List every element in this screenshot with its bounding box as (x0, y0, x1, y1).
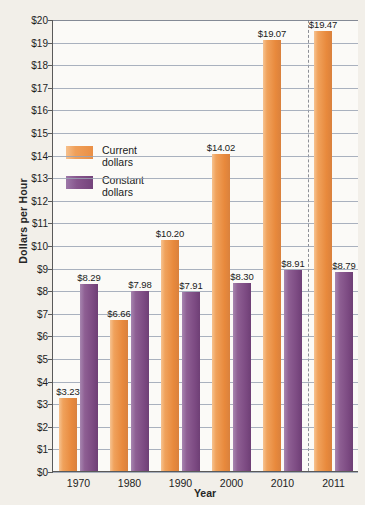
gridline (53, 427, 358, 428)
legend-label-current-line2: dollars (102, 157, 137, 169)
y-axis-tick-label: $1 (0, 444, 48, 455)
bar-value-label: $7.91 (179, 280, 202, 291)
y-axis-tickmark (48, 88, 53, 89)
y-axis-tickmark (48, 156, 53, 157)
y-axis-tick-label: $18 (0, 60, 48, 71)
bar-1980-constant[interactable] (131, 291, 149, 471)
bar-value-label: $19.07 (258, 28, 286, 39)
y-axis-tickmark (48, 246, 53, 247)
y-axis-tick-label: $2 (0, 421, 48, 432)
gridline (53, 382, 358, 383)
gridline (53, 269, 358, 270)
gridline (53, 359, 358, 360)
y-axis-tick-label: $0 (0, 467, 48, 478)
legend-label-constant-line2: dollars (102, 187, 144, 199)
gridline (53, 65, 358, 66)
bar-value-label: $3.23 (56, 386, 79, 397)
y-axis-tick-label: $19 (0, 37, 48, 48)
gridline (53, 43, 358, 44)
y-axis-tick-label: $12 (0, 195, 48, 206)
y-axis-tickmark (48, 223, 53, 224)
gridline (53, 133, 358, 134)
y-axis-tick-label: $5 (0, 354, 48, 365)
y-axis-tickmark (48, 178, 53, 179)
y-axis-tick-label: $6 (0, 331, 48, 342)
y-axis-tick-label: $3 (0, 399, 48, 410)
bar-value-label: $8.30 (230, 271, 253, 282)
bar-value-label: $6.66 (107, 308, 130, 319)
gridline (53, 449, 358, 450)
y-axis-tickmark (48, 133, 53, 134)
bar-1970-constant[interactable] (80, 284, 98, 471)
y-axis-tickmark (48, 472, 53, 473)
gridline (53, 201, 358, 202)
gridline (53, 336, 358, 337)
y-axis-tickmark (48, 404, 53, 405)
legend-label-constant-line1: Constant (102, 175, 144, 187)
bar-chart: Dollars per Hour Current dollars Constan… (0, 0, 365, 505)
y-axis-tickmark (48, 427, 53, 428)
bar-value-label: $7.98 (128, 279, 151, 290)
bar-2011-current[interactable] (314, 31, 332, 471)
bar-value-label: $10.20 (156, 228, 184, 239)
y-axis-tick-label: $16 (0, 105, 48, 116)
gridline (53, 404, 358, 405)
y-axis-tickmark (48, 201, 53, 202)
y-axis-tickmark (48, 291, 53, 292)
x-axis-title: Year (52, 487, 358, 499)
gridline (53, 472, 358, 473)
y-axis-tickmark (48, 110, 53, 111)
bar-value-label: $8.29 (77, 272, 100, 283)
bar-1990-current[interactable] (161, 240, 179, 471)
y-axis-tick-label: $4 (0, 376, 48, 387)
bar-1980-current[interactable] (110, 320, 128, 471)
y-axis-tickmark (48, 336, 53, 337)
y-axis-tick-label: $10 (0, 241, 48, 252)
gridline (53, 223, 358, 224)
y-axis-tickmark (48, 359, 53, 360)
y-axis-tickmark (48, 314, 53, 315)
y-axis-tick-label: $11 (0, 218, 48, 229)
y-axis-tickmark (48, 382, 53, 383)
gridline (53, 156, 358, 157)
y-axis-tickmark (48, 20, 53, 21)
legend-swatch-current-icon (66, 146, 93, 159)
y-axis-tick-label: $13 (0, 173, 48, 184)
bar-1990-constant[interactable] (182, 292, 200, 471)
y-axis-tick-label: $17 (0, 82, 48, 93)
y-axis-tick-label: $15 (0, 128, 48, 139)
y-axis-tick-label: $7 (0, 308, 48, 319)
y-axis-tickmark (48, 449, 53, 450)
bar-value-label: $8.79 (332, 260, 355, 271)
bar-value-label: $19.47 (309, 19, 337, 30)
y-axis-tickmark (48, 269, 53, 270)
y-axis-tickmark (48, 65, 53, 66)
gridline (53, 246, 358, 247)
bar-2000-current[interactable] (212, 154, 230, 471)
bar-2010-constant[interactable] (284, 270, 302, 471)
y-axis-tick-label: $8 (0, 286, 48, 297)
gridline (53, 291, 358, 292)
gridline (53, 88, 358, 89)
y-axis-tick-label: $20 (0, 15, 48, 26)
bar-2011-constant[interactable] (335, 272, 353, 471)
y-axis-tickmark (48, 43, 53, 44)
bar-2000-constant[interactable] (233, 283, 251, 471)
bar-value-label: $14.02 (207, 142, 235, 153)
y-axis-tick-label: $14 (0, 150, 48, 161)
bar-value-label: $8.91 (281, 258, 304, 269)
gridline (53, 314, 358, 315)
legend: Current dollars Constant dollars (66, 145, 178, 205)
plot-area: Current dollars Constant dollars $0$1$2$… (52, 20, 358, 472)
gridline (53, 178, 358, 179)
y-axis-tick-label: $9 (0, 263, 48, 274)
bar-1970-current[interactable] (59, 398, 77, 471)
gridline (53, 110, 358, 111)
bar-2010-current[interactable] (263, 40, 281, 471)
